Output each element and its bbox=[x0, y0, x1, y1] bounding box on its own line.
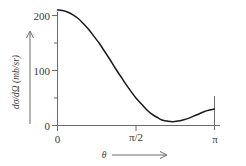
x-axis-ticks bbox=[58, 126, 137, 132]
scattering-cross-section-figure: dσ/dΩ (mb/sr) 200 100 0 bbox=[0, 0, 246, 166]
y-axis-arrow bbox=[27, 31, 34, 124]
y-axis-label: dσ/dΩ (mb/sr) bbox=[11, 55, 22, 109]
x-tick-label-0: 0 bbox=[55, 133, 61, 145]
cross-section-curve bbox=[58, 10, 215, 122]
y-tick-label-0: 0 bbox=[45, 120, 51, 132]
y-tick-label-200: 200 bbox=[34, 10, 51, 22]
y-axis-major-ticks bbox=[52, 16, 58, 126]
x-tick-label-pi: π bbox=[212, 133, 218, 145]
x-axis-label-group: θ bbox=[102, 150, 167, 160]
chart-svg: dσ/dΩ (mb/sr) 200 100 0 bbox=[0, 0, 246, 166]
y-axis-label-group: dσ/dΩ (mb/sr) bbox=[11, 55, 22, 109]
x-tick-label-pi-over-2: π/2 bbox=[129, 131, 143, 143]
x-axis-label: θ bbox=[102, 150, 107, 160]
y-tick-label-100: 100 bbox=[34, 65, 51, 77]
